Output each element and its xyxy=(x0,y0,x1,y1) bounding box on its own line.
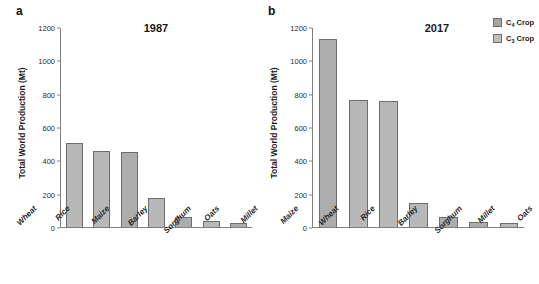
y-axis-label-a: Total World Production (Mt) xyxy=(17,33,27,213)
bar-slot xyxy=(61,28,88,227)
y-tick-label: 200 xyxy=(42,190,55,199)
panel-letter-b: b xyxy=(268,4,275,18)
y-tick-mark xyxy=(309,61,312,62)
x-tick-slot: Barley xyxy=(381,202,420,258)
bar-slot xyxy=(116,28,143,227)
panel-letter-a: a xyxy=(16,4,23,18)
y-tick-mark xyxy=(309,28,312,29)
y-tick-mark xyxy=(309,128,312,129)
bar-slot xyxy=(170,28,197,227)
y-tick-label: 800 xyxy=(42,90,55,99)
x-tick-slot: Barley xyxy=(113,202,150,258)
y-axis-label-b: Total World Production (Mt) xyxy=(269,33,279,213)
bar-maize xyxy=(319,39,338,227)
bar-slot xyxy=(225,28,252,227)
y-tick-mark xyxy=(57,194,60,195)
y-tick-mark xyxy=(57,61,60,62)
y-tick-mark xyxy=(57,94,60,95)
y-tick-mark xyxy=(57,128,60,129)
x-tick-label-millet: Millet xyxy=(476,204,497,225)
x-tick-slot: Millet xyxy=(225,202,262,258)
y-tick-label: 200 xyxy=(294,190,307,199)
bar-slot xyxy=(343,28,373,227)
figure-root: a 1987 Total World Production (Mt) 02004… xyxy=(0,0,539,284)
bar-group-a xyxy=(61,28,252,227)
y-tick-label: 600 xyxy=(42,124,55,133)
bar-slot xyxy=(373,28,403,227)
legend-swatch-icon xyxy=(493,18,502,27)
y-tick-label: 600 xyxy=(294,124,307,133)
x-tick-slot: Maize xyxy=(76,202,113,258)
x-tick-slot: Sorghum xyxy=(150,202,187,258)
y-tick-mark xyxy=(309,161,312,162)
x-tick-slot: Maize xyxy=(263,202,302,258)
legend-label-suffix: Crop xyxy=(514,18,534,27)
legend: C4 CropC3 Crop xyxy=(493,18,539,50)
x-tick-slot: Rice xyxy=(342,202,381,258)
y-tick-mark xyxy=(57,28,60,29)
x-tick-slot: Oats xyxy=(187,202,224,258)
x-tick-label-barley: Barley xyxy=(126,204,150,228)
bar-slot xyxy=(197,28,224,227)
bar-slot xyxy=(88,28,115,227)
x-tick-slot: Oats xyxy=(500,202,539,258)
y-tick-label: 800 xyxy=(294,90,307,99)
legend-item-c4: C4 Crop xyxy=(493,18,539,27)
x-tick-slot: Rice xyxy=(38,202,75,258)
x-tick-slot: Wheat xyxy=(1,202,38,258)
legend-swatch-icon xyxy=(493,34,502,43)
x-tick-labels-a: WheatRiceMaizeBarleySorghumOatsMillet xyxy=(1,202,262,258)
legend-item-c3: C3 Crop xyxy=(493,34,539,43)
x-tick-label-millet: Millet xyxy=(239,204,260,225)
y-tick-label: 400 xyxy=(42,157,55,166)
x-tick-label-rice: Rice xyxy=(53,204,71,222)
panel-a: a 1987 Total World Production (Mt) 02004… xyxy=(0,0,262,284)
x-tick-label-wheat: Wheat xyxy=(15,204,38,227)
y-tick-label: 1000 xyxy=(38,57,55,66)
x-tick-slot: Wheat xyxy=(302,202,341,258)
x-tick-slot: Sorghum xyxy=(421,202,460,258)
bar-slot xyxy=(403,28,433,227)
y-tick-label: 400 xyxy=(294,157,307,166)
y-tick-label: 1200 xyxy=(38,24,55,33)
plot-area-a: 020040060080010001200 xyxy=(60,28,252,228)
y-tick-mark xyxy=(309,94,312,95)
x-tick-labels-b: MaizeWheatRiceBarleySorghumMilletOats xyxy=(263,202,539,258)
x-tick-label-wheat: Wheat xyxy=(317,204,340,227)
y-tick-label: 1000 xyxy=(290,57,307,66)
bar-slot xyxy=(313,28,343,227)
x-tick-slot: Millet xyxy=(460,202,499,258)
x-tick-label-oats: Oats xyxy=(202,204,221,223)
y-tick-mark xyxy=(309,194,312,195)
x-tick-label-barley: Barley xyxy=(396,204,420,228)
bar-slot xyxy=(143,28,170,227)
plot-area-b: 020040060080010001200 xyxy=(312,28,524,228)
y-tick-mark xyxy=(57,161,60,162)
x-tick-label-maize: Maize xyxy=(278,204,300,226)
x-tick-label-rice: Rice xyxy=(358,204,376,222)
legend-label: C4 Crop xyxy=(506,18,534,27)
bar-slot xyxy=(434,28,464,227)
x-tick-label-maize: Maize xyxy=(90,204,112,226)
legend-label-suffix: Crop xyxy=(514,34,534,43)
bar-slot xyxy=(494,28,524,227)
bar-group-b xyxy=(313,28,524,227)
legend-label: C3 Crop xyxy=(506,34,534,43)
bar-slot xyxy=(464,28,494,227)
x-tick-label-oats: Oats xyxy=(516,204,535,223)
y-tick-label: 1200 xyxy=(290,24,307,33)
